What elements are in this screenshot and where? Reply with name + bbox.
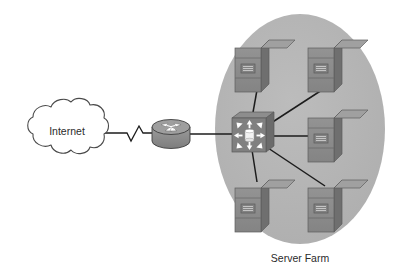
diagram-canvas: Internet Server Farm	[0, 0, 402, 274]
cloud-icon[interactable]: Internet	[28, 98, 109, 153]
switch-core	[245, 129, 254, 142]
server-farm-label: Server Farm	[271, 252, 330, 264]
router-icon[interactable]	[152, 120, 190, 149]
network-diagram: Internet Server Farm	[0, 0, 402, 274]
switch-icon[interactable]	[232, 112, 274, 152]
link-cloud-router	[104, 126, 152, 141]
internet-label: Internet	[49, 125, 85, 137]
